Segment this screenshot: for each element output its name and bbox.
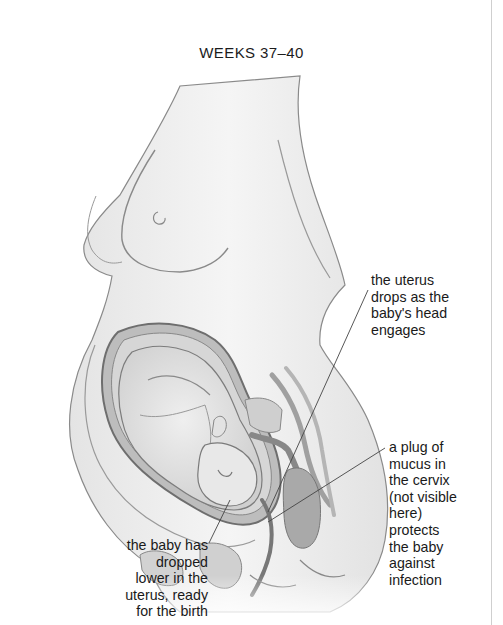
label-line: the cervix [389, 472, 457, 489]
label-line: infection [389, 572, 457, 589]
label-line: here) [389, 505, 457, 522]
label-line: mucus in [389, 456, 457, 473]
label-line: dropped [60, 554, 208, 571]
label-line: (not visible [389, 489, 457, 506]
label-line: the baby [389, 539, 457, 556]
label-uterus-drops: the uterus drops as the baby's head enga… [371, 272, 449, 338]
label-line: the uterus [371, 272, 449, 289]
label-line: the baby has [60, 537, 208, 554]
label-line: engages [371, 322, 449, 339]
page-title: WEEKS 37–40 [0, 44, 503, 61]
label-line: lower in the [60, 570, 208, 587]
label-line: a plug of [389, 439, 457, 456]
label-line: for the birth [60, 603, 208, 620]
label-line: drops as the [371, 289, 449, 306]
label-line: protects [389, 522, 457, 539]
label-mucus-plug: a plug of mucus in the cervix (not visib… [389, 439, 457, 588]
label-line: baby's head [371, 305, 449, 322]
label-baby-dropped: the baby has dropped lower in the uterus… [60, 537, 208, 620]
label-line: against [389, 555, 457, 572]
label-line: uterus, ready [60, 587, 208, 604]
